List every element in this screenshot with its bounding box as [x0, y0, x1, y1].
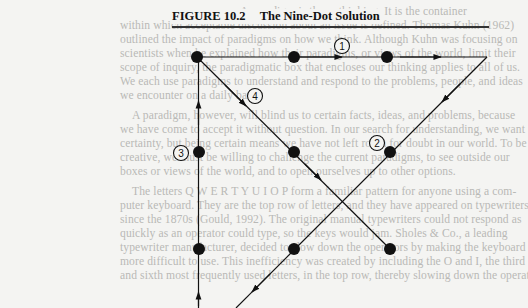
dot-top-center [288, 51, 300, 63]
nine-dot-solution-diagram: 1 2 3 4 [0, 0, 528, 308]
scanned-book-page: A paradigm is the ... thinking. It is th… [0, 0, 528, 308]
step-marker-3: 3 [174, 146, 189, 161]
step-marker-2: 2 [370, 136, 385, 151]
svg-text:1: 1 [339, 41, 345, 52]
svg-text:3: 3 [178, 148, 184, 159]
dot-middle-center [288, 146, 300, 158]
dot-middle-right [384, 146, 396, 158]
dot-top-left [191, 51, 203, 63]
dot-middle-left [193, 146, 205, 158]
dot-bottom-center [288, 243, 300, 255]
dot-top-right [381, 51, 393, 63]
dot-bottom-left [193, 243, 205, 255]
step-marker-1: 1 [335, 39, 350, 54]
dot-bottom-right [384, 243, 396, 255]
stroke-2-diagonal [236, 57, 487, 308]
svg-text:2: 2 [374, 138, 380, 149]
step-marker-4: 4 [248, 89, 263, 104]
svg-text:4: 4 [252, 91, 258, 102]
